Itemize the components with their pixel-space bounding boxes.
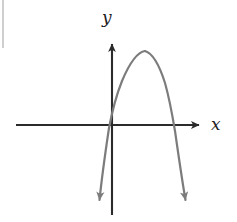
y-axis-label: y: [102, 9, 112, 26]
x-axis-label: x: [211, 116, 221, 133]
parabola-figure: y x: [0, 0, 237, 222]
axes-group: [16, 44, 199, 215]
graph-canvas: [0, 0, 237, 222]
